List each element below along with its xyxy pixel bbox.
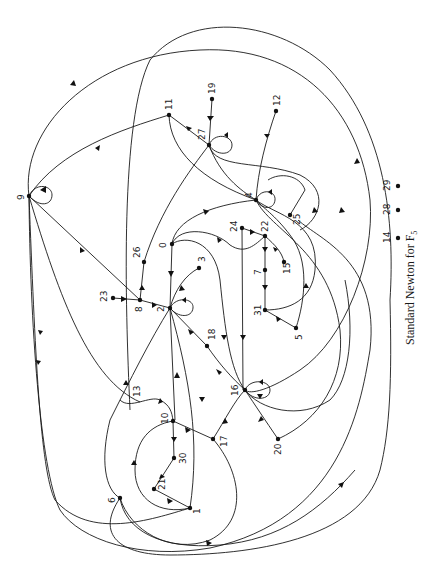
- node-label-19: 19: [207, 82, 217, 94]
- node-2[interactable]: [168, 306, 172, 310]
- node-label-25: 25: [292, 214, 302, 225]
- edge-27-to-4: [209, 145, 319, 230]
- figure-caption: Standard Newton for F5: [403, 231, 419, 345]
- self-loop-2: [170, 300, 193, 316]
- node-17[interactable]: [211, 437, 215, 441]
- node-label-4: 4: [244, 192, 254, 198]
- node-9[interactable]: [27, 194, 31, 198]
- node-label-16: 16: [230, 384, 240, 396]
- node-31[interactable]: [263, 308, 267, 312]
- node-27[interactable]: [207, 143, 211, 147]
- node-label-11: 11: [164, 99, 174, 110]
- node-label-24: 24: [229, 220, 239, 232]
- node-23[interactable]: [111, 296, 115, 300]
- node-14[interactable]: [396, 236, 400, 240]
- arrowhead: [206, 540, 212, 546]
- arrowhead: [259, 379, 263, 385]
- arrowhead: [121, 296, 127, 302]
- node-19[interactable]: [210, 97, 214, 101]
- node-22[interactable]: [263, 234, 267, 238]
- arrowhead: [139, 285, 145, 290]
- edge-12-to-4: [256, 111, 276, 200]
- arrowhead: [40, 186, 46, 193]
- arrowhead: [216, 369, 222, 375]
- node-24[interactable]: [240, 226, 244, 230]
- arrowhead-layer: [36, 80, 360, 546]
- arrowhead: [38, 330, 43, 335]
- node-0[interactable]: [170, 242, 174, 246]
- node-3[interactable]: [197, 266, 201, 270]
- node-10[interactable]: [171, 419, 175, 423]
- edge-18-to-16: [207, 346, 245, 390]
- edge-19-to-27: [209, 99, 212, 145]
- arrowhead: [207, 116, 214, 121]
- node-label-layer: 0 1 2 3 4 5 6 7 8 9 10 11 12 13 14 15 16…: [16, 82, 392, 514]
- caption-text: Standard Newton for F5: [403, 231, 419, 345]
- node-layer: [27, 97, 400, 510]
- edge-6-to-29: [120, 470, 355, 546]
- edge-11-to-4: [169, 115, 256, 200]
- node-7[interactable]: [263, 268, 267, 272]
- arrowhead: [264, 134, 270, 138]
- arrowhead: [199, 397, 205, 402]
- caption-main: Standard Newton for F: [403, 234, 417, 345]
- edge-16-loop-back: [245, 280, 350, 411]
- edge-27-to-8: [140, 145, 209, 300]
- edge-20-to-16: [245, 390, 278, 439]
- edge-21-to-1: [154, 489, 190, 508]
- node-label-21: 21: [157, 479, 167, 490]
- node-label-30: 30: [178, 452, 188, 464]
- graph-figure: 0 1 2 3 4 5 6 7 8 9 10 11 12 13 14 15 16…: [0, 0, 426, 563]
- node-8[interactable]: [138, 298, 142, 302]
- node-label-27: 27: [197, 129, 207, 140]
- node-label-29: 29: [382, 179, 392, 191]
- node-label-10: 10: [160, 412, 170, 424]
- node-30[interactable]: [172, 456, 176, 460]
- node-label-13: 13: [132, 386, 142, 397]
- arrowhead: [70, 80, 76, 86]
- arrowhead: [354, 158, 360, 164]
- arrowhead: [222, 418, 228, 424]
- arrowhead: [182, 297, 186, 303]
- edge-outer-arc-top: [28, 50, 370, 392]
- node-4[interactable]: [254, 198, 258, 202]
- node-21[interactable]: [152, 487, 156, 491]
- node-label-15: 15: [282, 263, 292, 274]
- self-loop-27: [209, 136, 232, 153]
- edge-layer: [28, 27, 391, 555]
- node-26[interactable]: [142, 260, 146, 264]
- node-28[interactable]: [396, 208, 400, 212]
- node-18[interactable]: [205, 344, 209, 348]
- node-label-17: 17: [219, 436, 229, 447]
- node-5[interactable]: [294, 326, 298, 330]
- node-label-23: 23: [99, 291, 109, 302]
- node-label-9: 9: [16, 194, 26, 200]
- node-label-26: 26: [132, 246, 142, 258]
- node-11[interactable]: [167, 113, 171, 117]
- arrowhead: [168, 271, 174, 277]
- node-label-8: 8: [134, 306, 144, 312]
- arrowhead: [240, 335, 246, 340]
- node-label-0: 0: [158, 242, 168, 248]
- node-20[interactable]: [276, 437, 280, 441]
- node-29[interactable]: [396, 184, 400, 188]
- edge-24-to-16: [242, 228, 243, 390]
- arrowhead: [174, 372, 180, 378]
- arrowhead: [250, 229, 255, 235]
- edge-3-to-2: [170, 268, 199, 308]
- edge-11-to-9: [29, 115, 169, 196]
- caption-subscript: 5: [410, 231, 419, 235]
- node-16[interactable]: [243, 388, 247, 392]
- edge-outer-arc-second: [126, 27, 391, 410]
- node-label-1: 1: [192, 508, 202, 514]
- node-label-6: 6: [107, 497, 117, 503]
- arrowhead: [159, 474, 165, 479]
- arrowhead: [221, 335, 227, 340]
- node-6[interactable]: [118, 496, 122, 500]
- node-12[interactable]: [274, 109, 278, 113]
- node-label-2: 2: [156, 306, 166, 312]
- edge-17-to-16: [213, 390, 245, 439]
- self-loop-layer: [29, 136, 275, 398]
- arrowhead: [276, 316, 281, 322]
- node-label-7: 7: [253, 269, 263, 275]
